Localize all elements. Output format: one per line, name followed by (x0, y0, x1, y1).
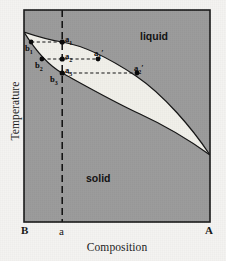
point-label-b3: b3 (50, 75, 58, 86)
point-label-a3: a3 (65, 66, 72, 77)
point-label-a1-sub: 1 (69, 40, 72, 46)
point-label-b1-sub: 1 (30, 49, 33, 55)
point-label-a3-sub: 3 (69, 71, 72, 77)
point-label-b2-sub: 2 (40, 66, 43, 72)
x-axis-title: Composition (24, 241, 210, 253)
point-label-a2: a2 (65, 52, 72, 63)
point-label-b3-sub: 3 (55, 80, 58, 86)
point-label-b2: b2 (35, 61, 43, 72)
y-axis-title: Temperature (9, 63, 21, 159)
point-label-a1-prime: a1′ (94, 49, 104, 60)
x-tick-label-A: A (205, 224, 213, 236)
phase-diagram-canvas (0, 0, 226, 261)
point-label-a2-prime-mark: ′ (141, 63, 143, 73)
point-label-b1: b1 (25, 44, 33, 55)
point-label-a1: a1 (65, 35, 72, 46)
point-label-a1-prime-mark: ′ (101, 48, 103, 58)
x-tick-label-B: B (21, 224, 28, 236)
x-tick-label-a: a (59, 225, 64, 237)
region-label-liquid: liquid (140, 30, 168, 42)
point-label-a2-prime: a2′ (134, 64, 144, 75)
point-label-a2-sub: 2 (69, 57, 72, 63)
phase-diagram-figure: Temperature Composition B a A liquid sol… (0, 0, 226, 261)
region-label-solid: solid (86, 172, 111, 184)
